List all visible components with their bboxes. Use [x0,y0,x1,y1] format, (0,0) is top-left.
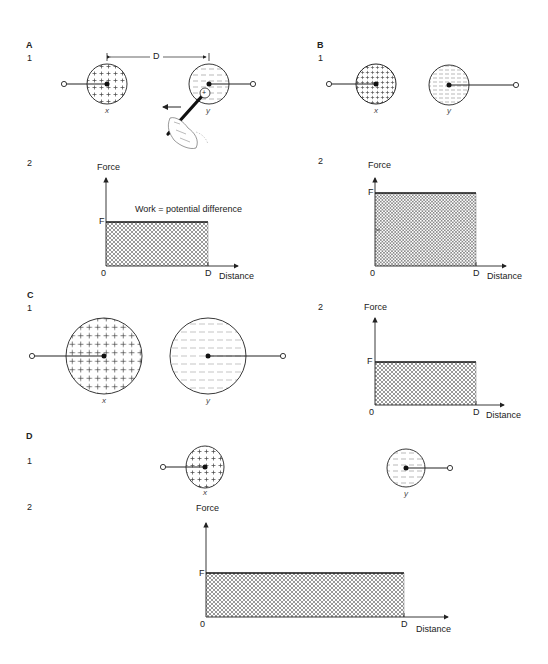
panel-d1-diagram [160,446,452,488]
chart-b2-ylabel: Force [368,161,391,170]
chart-b2-f-tick: F [368,188,374,197]
sphere-x-positive [160,446,224,488]
chart-d2-xlabel: Distance [416,625,451,634]
panel-a1-diagram [61,53,255,149]
chart-d2-origin: 0 [200,620,205,629]
sphere-x-label: x [374,107,378,115]
subpanel-d1-label: 1 [27,457,32,466]
sphere-x-positive [326,64,396,104]
chart-a2-xlabel: Distance [219,272,254,281]
sphere-x-label: x [105,107,109,115]
panel-letter-c: C [27,291,34,300]
sphere-x-positive [29,318,142,394]
chart-c2-d-tick: D [473,408,480,417]
insulator-knob-icon [326,81,331,86]
panel-letter-d: D [26,432,33,441]
distance-label: D [153,52,160,61]
sphere-y-negative [429,65,519,105]
sphere-y-negative [170,318,286,394]
panel-b1-diagram [326,64,518,105]
subpanel-c1-label: 1 [27,304,32,313]
insulator-knob-icon [250,81,255,86]
chart-a2-d-tick: D [205,269,212,278]
chart-c2-f-tick: F [367,357,373,366]
sphere-y-label: y [206,107,210,115]
sphere-x-label: x [203,489,207,497]
test-charge-probe [168,88,210,149]
chart-c2-xlabel: Distance [486,411,521,420]
chart-a2-f-tick: F [99,217,105,226]
chart-b2-origin: 0 [370,269,375,278]
subpanel-a1-label: 1 [27,54,32,63]
sphere-y-negative [387,449,453,487]
panel-d2-chart [206,523,448,617]
chart-b2-d-tick: D [473,269,480,278]
panel-a2-chart [106,178,238,266]
insulator-knob-icon [447,465,452,470]
chart-b2-xlabel: Distance [487,272,522,281]
chart-c2-origin: 0 [369,408,374,417]
test-charge-sign: + [202,89,206,96]
chart-d2-ylabel: Force [196,504,219,513]
panel-c2-chart [375,318,504,405]
insulator-knob-icon [280,353,285,358]
chart-a2-origin: 0 [101,269,106,278]
panel-letter-a: A [26,41,33,50]
chart-d2-f-tick: F [199,569,205,578]
panel-letter-b: B [317,41,324,50]
sphere-y-label: y [447,107,451,115]
subpanel-d2-label: 2 [27,503,32,512]
insulator-knob-icon [513,82,518,87]
subpanel-b2-label: 2 [318,157,323,166]
chart-c2-ylabel: Force [364,303,387,312]
subpanel-a2-label: 2 [27,159,32,168]
hand-icon [168,118,197,149]
insulator-knob-icon [29,353,34,358]
panel-c1-diagram [29,318,285,394]
subpanel-b1-label: 1 [318,54,323,63]
insulator-knob-icon [160,464,165,469]
figure-canvas [0,0,548,664]
sphere-x-positive [61,64,127,104]
sphere-y-label: y [206,397,210,405]
subpanel-c2-label: 2 [318,303,323,312]
sphere-x-label: x [102,397,106,405]
insulator-knob-icon [61,81,66,86]
sphere-y-label: y [404,490,408,498]
chart-a2-annotation: Work = potential difference [135,205,242,214]
panel-b2-chart [375,178,506,266]
chart-a2-ylabel: Force [97,163,120,172]
chart-d2-d-tick: D [401,620,408,629]
